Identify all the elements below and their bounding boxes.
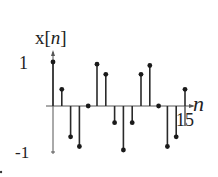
y-axis-arrow-icon <box>51 50 55 56</box>
x-tick-label-15: 15 <box>176 111 194 129</box>
y-tick-label-bottom: -1 <box>15 144 29 161</box>
stem-marker <box>139 72 144 77</box>
artifact-dot <box>0 171 2 173</box>
stem-marker <box>95 62 100 67</box>
x-axis-label: n <box>193 93 204 115</box>
stem-marker <box>183 87 188 92</box>
stem-marker <box>59 87 64 92</box>
stem-marker <box>77 144 82 149</box>
stem-marker <box>112 120 117 125</box>
y-axis-label: x[n] <box>35 28 67 47</box>
stem-marker <box>103 72 108 77</box>
y-tick-label-top: 1 <box>19 54 28 72</box>
stem-marker <box>174 134 179 139</box>
stem-marker <box>130 120 135 125</box>
stem-marker <box>121 148 126 153</box>
stem-marker <box>165 144 170 149</box>
stem-marker <box>86 104 91 109</box>
stem-marker <box>68 134 73 139</box>
stem-marker <box>156 104 161 109</box>
stem-plot <box>0 0 218 177</box>
stem-marker <box>147 63 152 68</box>
stem-marker <box>51 60 56 65</box>
